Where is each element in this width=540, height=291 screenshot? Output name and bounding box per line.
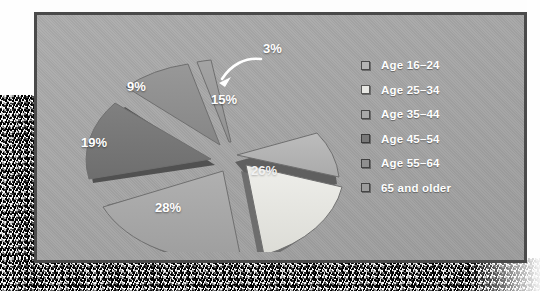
page-background-top-right (527, 0, 540, 262)
pie-chart: 15% 26% 28% 19% 9% 3% (45, 37, 345, 252)
data-label-age-35-44: 28% (155, 200, 181, 215)
chart-legend: Age 16–24 Age 25–34 Age 35–44 Age 45–54 … (361, 53, 511, 200)
screenshot-stage: 15% 26% 28% 19% 9% 3% Age 16–24 Age 25–3… (0, 0, 540, 291)
data-label-age-45-54: 19% (81, 135, 107, 150)
legend-label: Age 55–64 (381, 157, 440, 169)
pie-slices (86, 60, 342, 252)
legend-item-age-16-24[interactable]: Age 16–24 (361, 53, 511, 78)
legend-swatch-icon (361, 159, 370, 168)
data-label-65-and-older: 3% (263, 41, 282, 56)
legend-swatch-icon (361, 85, 370, 94)
legend-label: 65 and older (381, 182, 451, 194)
legend-item-age-35-44[interactable]: Age 35–44 (361, 102, 511, 127)
legend-swatch-icon (361, 134, 370, 143)
legend-label: Age 35–44 (381, 108, 440, 120)
legend-item-65-and-older[interactable]: 65 and older (361, 176, 511, 201)
legend-swatch-icon (361, 110, 370, 119)
legend-label: Age 25–34 (381, 84, 440, 96)
legend-item-age-45-54[interactable]: Age 45–54 (361, 127, 511, 152)
data-label-age-16-24: 15% (211, 92, 237, 107)
legend-label: Age 45–54 (381, 133, 440, 145)
data-label-age-55-64: 9% (127, 79, 146, 94)
legend-label: Age 16–24 (381, 59, 440, 71)
chart-panel: 15% 26% 28% 19% 9% 3% Age 16–24 Age 25–3… (34, 12, 527, 263)
data-label-age-25-34: 26% (251, 163, 277, 178)
legend-swatch-icon (361, 183, 370, 192)
callout-arrow-icon (219, 59, 261, 87)
legend-swatch-icon (361, 61, 370, 70)
legend-item-age-25-34[interactable]: Age 25–34 (361, 78, 511, 103)
legend-item-age-55-64[interactable]: Age 55–64 (361, 151, 511, 176)
